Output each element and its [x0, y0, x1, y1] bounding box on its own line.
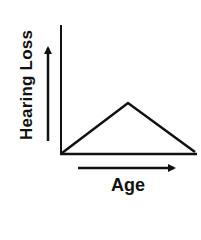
y-axis-label: Hearing Loss	[17, 30, 37, 140]
x-axis-label: Age	[111, 175, 145, 196]
data-line	[62, 103, 195, 153]
